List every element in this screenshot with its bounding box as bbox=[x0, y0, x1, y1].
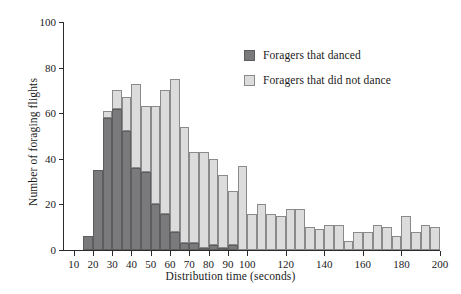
y-axis-tick-label: 40 bbox=[45, 153, 56, 165]
x-axis-tick bbox=[228, 251, 229, 256]
histogram-bar bbox=[151, 106, 161, 250]
histogram-bar bbox=[334, 225, 344, 250]
bar-segment-danced bbox=[209, 245, 219, 250]
histogram-bar bbox=[305, 227, 315, 250]
bar-segment-not-danced bbox=[305, 227, 315, 250]
legend-item-not-danced: Foragers that did not dance bbox=[244, 74, 391, 86]
bar-segment-not-danced bbox=[122, 97, 132, 131]
bar-segment-not-danced bbox=[112, 90, 122, 108]
x-axis-tick bbox=[247, 251, 248, 256]
histogram-bar bbox=[209, 159, 219, 250]
histogram-bar bbox=[112, 90, 122, 250]
x-axis-tick-label: 120 bbox=[277, 258, 294, 270]
bar-segment-danced bbox=[112, 109, 122, 250]
histogram-bar bbox=[238, 166, 248, 250]
x-axis-tick bbox=[324, 251, 325, 256]
bar-segment-not-danced bbox=[411, 232, 421, 250]
histogram-bar bbox=[266, 214, 276, 250]
histogram-bar bbox=[373, 225, 383, 250]
histogram-bar bbox=[382, 227, 392, 250]
bar-segment-danced bbox=[228, 245, 238, 250]
bar-segment-danced bbox=[131, 168, 141, 250]
histogram-bar bbox=[160, 90, 170, 250]
bar-segment-not-danced bbox=[257, 204, 267, 250]
legend-item-danced: Foragers that danced bbox=[244, 49, 391, 61]
x-axis-tick-label: 160 bbox=[355, 258, 372, 270]
bar-segment-not-danced bbox=[170, 79, 180, 232]
legend-swatch-danced-icon bbox=[244, 50, 255, 61]
x-axis-tick-label: 90 bbox=[222, 258, 233, 270]
bar-segment-not-danced bbox=[228, 191, 238, 246]
x-axis-tick-label: 40 bbox=[126, 258, 137, 270]
x-axis-tick-label: 80 bbox=[203, 258, 214, 270]
bar-segment-danced bbox=[103, 118, 113, 250]
bar-segment-danced bbox=[189, 243, 199, 250]
histogram-bar bbox=[122, 97, 132, 250]
bar-segment-not-danced bbox=[353, 232, 363, 250]
y-axis-tick bbox=[59, 250, 64, 251]
bar-segment-not-danced bbox=[180, 127, 190, 243]
x-axis-tick bbox=[131, 251, 132, 256]
x-axis-tick-label: 60 bbox=[165, 258, 176, 270]
histogram-bar bbox=[180, 127, 190, 250]
bar-segment-not-danced bbox=[141, 106, 151, 172]
histogram-bar bbox=[247, 214, 257, 250]
bar-segment-not-danced bbox=[295, 209, 305, 250]
histogram-bar bbox=[103, 111, 113, 250]
x-axis-tick bbox=[440, 251, 441, 256]
bar-segment-not-danced bbox=[324, 225, 334, 250]
bar-segment-not-danced bbox=[238, 166, 248, 250]
bar-segment-not-danced bbox=[315, 229, 325, 250]
bar-segment-not-danced bbox=[363, 232, 373, 250]
histogram-bar bbox=[141, 106, 151, 250]
histogram-bar bbox=[315, 229, 325, 250]
histogram-bar bbox=[170, 79, 180, 250]
y-axis-tick-label: 60 bbox=[45, 107, 56, 119]
x-axis-tick-label: 70 bbox=[184, 258, 195, 270]
histogram-bar bbox=[83, 236, 93, 250]
histogram-bar bbox=[392, 236, 402, 250]
x-axis-tick-label: 20 bbox=[87, 258, 98, 270]
histogram-bar bbox=[286, 209, 296, 250]
y-axis-tick bbox=[59, 159, 64, 160]
x-axis-tick-label: 30 bbox=[107, 258, 118, 270]
bar-segment-not-danced bbox=[266, 214, 276, 250]
histogram-bar bbox=[276, 216, 286, 250]
bar-segment-not-danced bbox=[209, 159, 219, 246]
histogram-bar bbox=[353, 232, 363, 250]
histogram-bar bbox=[363, 232, 373, 250]
x-axis-tick bbox=[401, 251, 402, 256]
bar-segment-danced bbox=[218, 248, 228, 250]
bar-segment-not-danced bbox=[334, 225, 344, 250]
bar-segment-not-danced bbox=[160, 90, 170, 213]
bar-segment-not-danced bbox=[286, 209, 296, 250]
y-axis-tick bbox=[59, 22, 64, 23]
x-axis-tick bbox=[189, 251, 190, 256]
histogram-bar bbox=[228, 191, 238, 250]
x-axis-tick-label: 100 bbox=[239, 258, 256, 270]
histogram-bar bbox=[411, 232, 421, 250]
bar-segment-danced bbox=[93, 170, 103, 250]
y-axis-tick-label: 80 bbox=[45, 61, 56, 73]
y-axis-tick bbox=[59, 113, 64, 114]
x-axis-tick bbox=[151, 251, 152, 256]
bar-segment-not-danced bbox=[276, 216, 286, 250]
histogram-bar bbox=[189, 152, 199, 250]
x-axis-line bbox=[63, 250, 440, 251]
histogram-bar bbox=[93, 170, 103, 250]
y-axis-line bbox=[63, 22, 64, 251]
x-axis-tick-label: 10 bbox=[68, 258, 79, 270]
x-axis-tick bbox=[363, 251, 364, 256]
x-axis-tick bbox=[74, 251, 75, 256]
chart-legend: Foragers that danced Foragers that did n… bbox=[244, 49, 391, 99]
bar-segment-not-danced bbox=[421, 225, 431, 250]
bar-segment-danced bbox=[160, 214, 170, 250]
histogram-bar bbox=[257, 204, 267, 250]
x-axis-tick bbox=[170, 251, 171, 256]
x-axis-tick bbox=[209, 251, 210, 256]
bar-segment-not-danced bbox=[131, 84, 141, 168]
x-axis-tick bbox=[286, 251, 287, 256]
legend-label-danced: Foragers that danced bbox=[263, 49, 361, 61]
bar-segment-not-danced bbox=[401, 216, 411, 250]
bar-segment-danced bbox=[83, 236, 93, 250]
